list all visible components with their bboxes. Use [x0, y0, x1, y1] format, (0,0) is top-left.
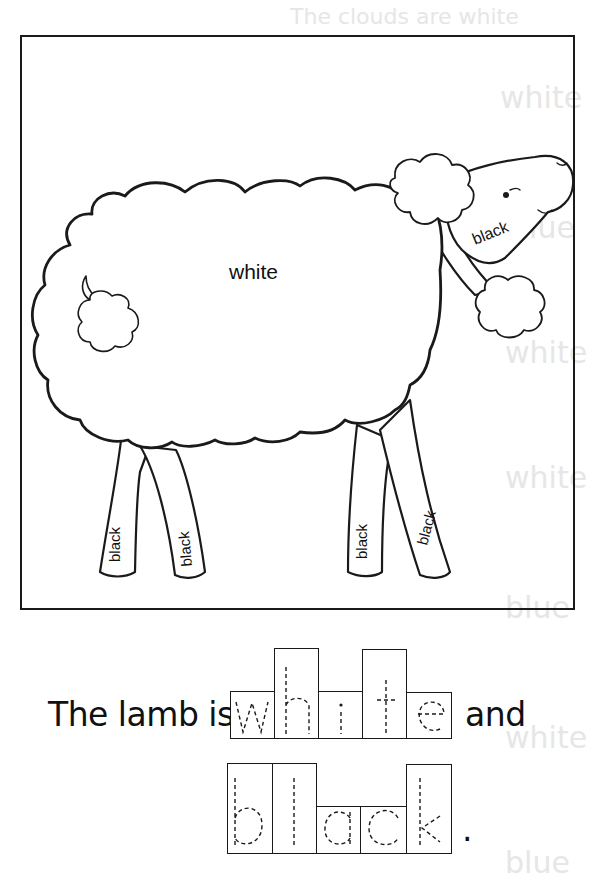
dotted-letter-b	[235, 778, 262, 846]
sentence-terminator: .	[462, 810, 472, 849]
dotted-letter-a	[325, 812, 350, 846]
trace-guides-black	[0, 0, 597, 886]
dotted-letter-k	[420, 778, 440, 846]
dotted-letter-c	[369, 811, 398, 845]
